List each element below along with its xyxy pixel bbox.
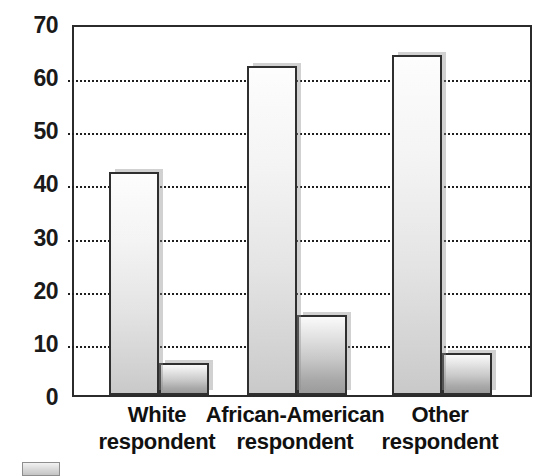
x-axis-label: Otherrespondent bbox=[310, 402, 552, 456]
x-axis: WhiterespondentAfrican-Americanresponden… bbox=[72, 402, 532, 468]
y-tick-label: 60 bbox=[33, 67, 58, 90]
bar bbox=[442, 353, 492, 396]
bar bbox=[297, 315, 347, 395]
y-tick-label: 70 bbox=[33, 14, 58, 37]
x-axis-label-line: respondent bbox=[310, 429, 552, 456]
y-tick-label: 30 bbox=[33, 226, 58, 249]
y-tick-label: 10 bbox=[33, 332, 58, 355]
x-axis-label-line: Other bbox=[310, 402, 552, 429]
bar-group bbox=[109, 27, 209, 395]
bar bbox=[159, 363, 209, 395]
legend-swatch-series-1 bbox=[22, 462, 60, 476]
bar-group bbox=[392, 27, 492, 395]
y-tick-label: 50 bbox=[33, 120, 58, 143]
bar bbox=[247, 66, 297, 395]
bar-group bbox=[247, 27, 347, 395]
plot-area bbox=[72, 25, 532, 397]
bar bbox=[392, 55, 442, 395]
bar bbox=[109, 172, 159, 395]
legend bbox=[22, 462, 60, 476]
y-tick-label: 20 bbox=[33, 279, 58, 302]
bars-layer bbox=[74, 27, 530, 395]
y-tick-label: 40 bbox=[33, 173, 58, 196]
